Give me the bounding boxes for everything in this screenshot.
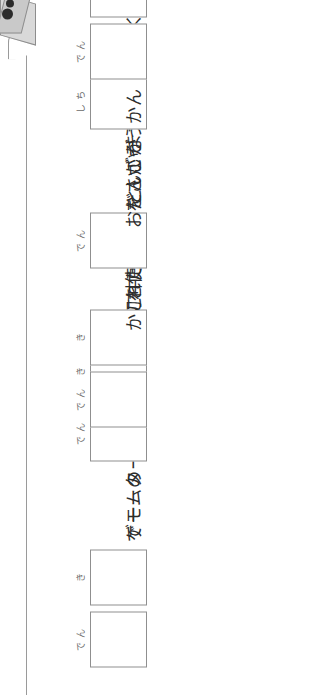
- row-lead-text: ゲームの: [126, 469, 147, 540]
- worksheet-page: でん き でモーターが動く。 ゲームの でん き が切れた。: [0, 0, 328, 695]
- row-lead-text: おだんごが: [126, 137, 147, 227]
- answer-box[interactable]: [90, 23, 147, 79]
- answer-box-slot: でん: [74, 611, 147, 667]
- pointer-dot-secondary-icon: [6, 0, 14, 7]
- answer-box-slot: でん: [74, 371, 147, 427]
- banner-divider: [26, 55, 27, 695]
- furigana-hint: でん: [74, 624, 87, 654]
- answer-box-group: でん き: [74, 541, 147, 675]
- answer-box-slot: でん: [74, 23, 147, 79]
- answer-box[interactable]: [90, 611, 147, 667]
- furigana-hint: でん: [74, 36, 87, 66]
- page-banner: [0, 0, 40, 695]
- answer-box[interactable]: [90, 549, 147, 605]
- answer-box[interactable]: [90, 0, 147, 17]
- answer-box-slot: き: [74, 549, 147, 605]
- furigana-hint: き: [74, 569, 87, 586]
- answer-box-slot: き: [74, 0, 147, 17]
- pointer-dot-icon: [2, 8, 13, 19]
- furigana-hint: き: [74, 329, 87, 346]
- row-lead-text: かん: [126, 87, 147, 123]
- furigana-hint: でん: [74, 225, 87, 255]
- worksheet-row: かん でん き を思い出す。: [52, 0, 147, 123]
- furigana-hint: でん: [74, 384, 87, 414]
- row-lead-text: かこ中: [126, 276, 147, 330]
- answer-box[interactable]: [90, 371, 147, 427]
- answer-box-group: でん き: [74, 0, 147, 87]
